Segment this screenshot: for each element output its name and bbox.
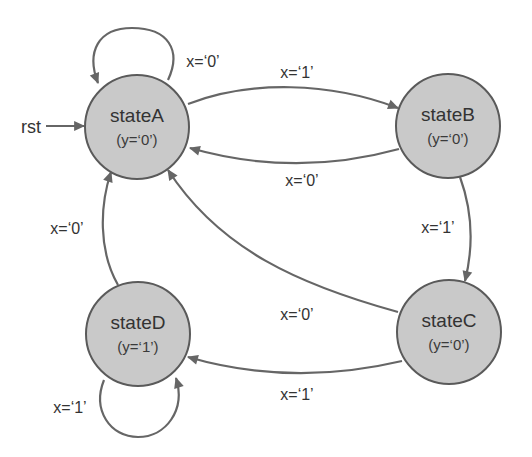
transition-d-to-a <box>103 172 118 285</box>
state-a: stateA (y=‘0’) <box>85 75 189 179</box>
reset-label: rst <box>21 117 41 137</box>
label-b-to-a: x=‘0’ <box>285 172 318 189</box>
state-diagram: stateA (y=‘0’) stateB (y=‘0’) stateC (y=… <box>0 0 532 457</box>
label-b-to-c: x=‘1’ <box>421 219 454 236</box>
label-a-to-b: x=‘1’ <box>280 64 313 81</box>
label-d-to-d: x=‘1’ <box>53 399 86 416</box>
state-a-output: (y=‘0’) <box>116 131 157 148</box>
transition-b-to-c <box>460 177 471 281</box>
label-d-to-a: x=‘0’ <box>50 220 83 237</box>
state-a-name: stateA <box>110 105 164 126</box>
state-d-output: (y=‘1’) <box>117 338 158 355</box>
label-a-to-a: x=‘0’ <box>186 53 219 70</box>
transition-c-to-d <box>188 357 402 373</box>
state-d-name: stateD <box>111 312 166 333</box>
state-c-name: stateC <box>422 310 477 331</box>
state-c: stateC (y=‘0’) <box>397 280 501 384</box>
transition-b-to-a <box>190 148 399 163</box>
transition-c-to-a <box>168 170 398 312</box>
label-c-to-a: x=‘0’ <box>280 306 313 323</box>
state-d: stateD (y=‘1’) <box>86 282 190 386</box>
state-b: stateB (y=‘0’) <box>396 74 500 178</box>
state-c-output: (y=‘0’) <box>428 336 469 353</box>
state-b-name: stateB <box>421 104 475 125</box>
label-c-to-d: x=‘1’ <box>280 386 313 403</box>
transition-a-to-b <box>188 87 398 108</box>
state-b-output: (y=‘0’) <box>427 130 468 147</box>
